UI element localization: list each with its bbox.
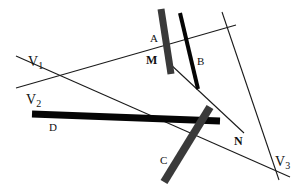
label-m-text: M	[146, 53, 157, 67]
labels-group: V1V2V3ABMNCD	[26, 32, 290, 171]
label-b: B	[197, 55, 204, 67]
bar-a	[161, 9, 171, 74]
diagram-canvas: V1V2V3ABMNCD	[0, 0, 307, 193]
label-v3: V3	[275, 154, 290, 171]
label-v2: V2	[26, 92, 41, 109]
label-b-text: B	[197, 55, 204, 67]
bar-d	[32, 114, 220, 121]
label-n: N	[234, 134, 243, 148]
label-m: M	[146, 53, 157, 67]
label-v2-text: V	[26, 92, 36, 107]
label-a-text: A	[150, 32, 158, 44]
label-n-text: N	[234, 134, 243, 148]
line-right	[222, 12, 279, 180]
label-d: D	[49, 121, 57, 133]
label-c: C	[160, 154, 167, 166]
label-v1: V1	[28, 54, 43, 71]
label-v3-text: V	[275, 154, 285, 169]
bar-b	[180, 13, 198, 89]
label-v1-subscript: 1	[38, 60, 43, 71]
label-v2-subscript: 2	[36, 98, 41, 109]
label-v3-subscript: 3	[285, 160, 290, 171]
label-a: A	[150, 32, 158, 44]
label-c-text: C	[160, 154, 167, 166]
bars-group	[32, 9, 220, 182]
label-v1-text: V	[28, 54, 38, 69]
label-d-text: D	[49, 121, 57, 133]
